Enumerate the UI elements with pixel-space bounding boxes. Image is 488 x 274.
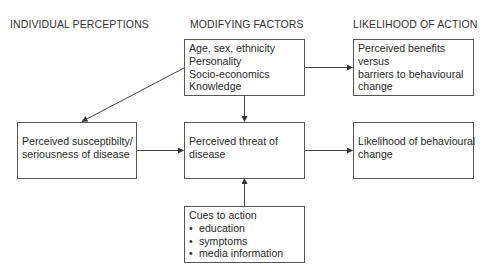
column-header-likelihood-of-action: LIKELIHOOD OF ACTION [353,18,478,30]
benefits-line: versus [358,55,469,68]
modifying-factor-line: Personality [189,55,300,68]
susceptibility-line: seriousness of disease [22,148,132,161]
susceptibility-line: Perceived susceptibilty/ [22,135,132,148]
perceived-threat-box: Perceived threat of disease [184,122,305,179]
perceived-susceptibility-box: Perceived susceptibilty/ seriousness of … [17,122,137,179]
cues-title: Cues to action [189,209,300,222]
likelihood-line: change [358,148,469,161]
threat-line: Perceived threat of [189,135,300,148]
arrow-modifying-to-susceptibility [82,68,184,122]
modifying-factor-line: Socio-economics [189,68,300,81]
benefits-barriers-box: Perceived benefits versus barriers to be… [353,39,474,96]
benefits-line: change [358,80,469,93]
likelihood-line: Likelihood of behavioural [358,135,469,148]
modifying-factor-line: Age, sex, ethnicity [189,42,300,55]
modifying-factor-line: Knowledge [189,80,300,93]
likelihood-behavioural-change-box: Likelihood of behavioural change [353,122,474,179]
cues-list: education symptoms media information [189,222,300,260]
benefits-line: Perceived benefits [358,42,469,55]
cue-item-education: education [189,222,300,235]
column-header-individual-perceptions: INDIVIDUAL PERCEPTIONS [10,18,149,30]
benefits-line: barriers to behavioural [358,68,469,81]
cue-item-symptoms: symptoms [189,235,300,248]
modifying-factors-box: Age, sex, ethnicity Personality Socio-ec… [184,39,305,96]
cues-to-action-box: Cues to action education symptoms media … [184,206,305,263]
column-header-modifying-factors: MODIFYING FACTORS [190,18,304,30]
threat-line: disease [189,148,300,161]
cue-item-media-information: media information [189,247,300,260]
